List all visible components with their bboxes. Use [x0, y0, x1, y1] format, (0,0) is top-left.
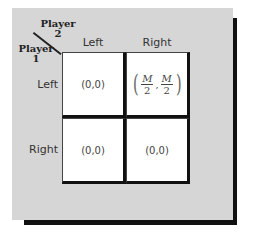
fraction-1: M 2 — [141, 73, 153, 96]
payoff-value: (0,0) — [145, 145, 169, 156]
row-header-left: Left — [20, 78, 58, 91]
player-1-label: Player 1 — [18, 44, 54, 64]
denominator-2: 2 — [164, 85, 170, 96]
payoff-fraction: ( M 2 , M 2 ) — [131, 72, 183, 96]
column-header-left: Left — [62, 36, 124, 49]
comma: , — [155, 79, 158, 90]
close-paren: ) — [176, 72, 182, 96]
row-header-right: Right — [20, 143, 58, 156]
numerator-1: M — [141, 73, 153, 85]
payoff-value: (0,0) — [81, 79, 105, 90]
payoff-cell-left-right: ( M 2 , M 2 ) — [126, 52, 190, 118]
player-1-number: 1 — [18, 54, 54, 64]
column-header-right: Right — [126, 36, 188, 49]
payoff-cell-right-left: (0,0) — [62, 118, 126, 184]
denominator-1: 2 — [144, 85, 150, 96]
payoff-cell-right-right: (0,0) — [126, 118, 190, 184]
open-paren: ( — [133, 72, 139, 96]
fraction-2: M 2 — [161, 73, 173, 96]
numerator-2: M — [161, 73, 173, 85]
payoff-value: (0,0) — [81, 145, 105, 156]
payoff-cell-left-left: (0,0) — [62, 52, 126, 118]
